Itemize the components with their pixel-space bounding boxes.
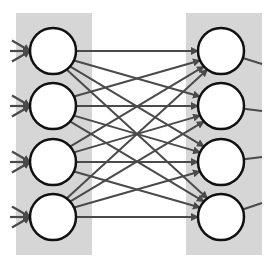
right-neuron-3: [198, 139, 244, 185]
left-neuron-2: [30, 83, 76, 129]
diagram-canvas: [0, 0, 277, 266]
right-neuron-2: [198, 83, 244, 129]
left-neuron-4: [30, 194, 76, 240]
right-neuron-4: [198, 194, 244, 240]
neural-network-diagram: [0, 0, 277, 266]
left-neuron-1: [30, 28, 76, 74]
right-neuron-1: [198, 28, 244, 74]
left-neuron-3: [30, 139, 76, 185]
